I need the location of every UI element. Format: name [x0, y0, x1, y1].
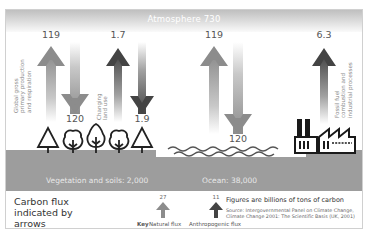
flux-value-up: 119: [199, 29, 229, 40]
carbon-cycle-diagram: Atmosphere 730: [0, 0, 369, 237]
arrow-down-natural-ocean: [224, 42, 252, 134]
tree-icon: [132, 128, 152, 153]
tree-icon: [87, 124, 104, 153]
flux-label-gpp: Global gross primary production and resp…: [13, 59, 32, 113]
legend-panel: Carbon flux indicated by arrows Key 27 N…: [6, 191, 362, 229]
flux-value-up: 1.7: [103, 29, 133, 40]
factory-icon: [293, 113, 359, 155]
key-anthropogenic-value: 11: [206, 194, 226, 200]
anthropogenic-flux-arrow-icon: [209, 202, 223, 218]
key-anthropogenic-label: Anthropogenic flux: [189, 221, 241, 227]
arrow-down-natural-vegetation: [61, 42, 89, 114]
natural-flux-arrow-icon: [156, 202, 170, 218]
flux-value-up: 119: [36, 29, 66, 40]
ocean-reservoir-label: Ocean: 38,000: [202, 176, 257, 185]
arrow-up-anthropogenic-landuse: [106, 48, 130, 122]
units-note: Figures are billions of tons of carbon: [226, 196, 344, 204]
key-natural-label: Natural flux: [149, 221, 181, 227]
flux-label-landuse: Changing land use: [96, 93, 109, 120]
key-natural-value: 27: [153, 194, 173, 200]
tree-icon: [64, 130, 83, 153]
source-citation: Source: Intergovernmental Panel on Clima…: [226, 208, 361, 220]
arrow-up-natural-ocean: [200, 46, 228, 134]
diagram-title: Carbon flux indicated by arrows: [14, 196, 104, 229]
flux-value-up: 6.3: [309, 29, 339, 40]
trees-group: [36, 123, 176, 155]
diagram-frame: Atmosphere 730: [5, 9, 363, 229]
vegetation-reservoir-label: Vegetation and soils: 2,000: [46, 176, 148, 185]
flux-label-fossil: Fossil fuel combustion and industrial pr…: [334, 62, 353, 118]
arrow-up-natural-vegetation: [37, 46, 65, 122]
key-label: Key: [137, 221, 148, 227]
tree-icon: [110, 130, 129, 153]
wave-icon: [166, 144, 306, 158]
tree-icon: [38, 128, 58, 153]
arrow-down-anthropogenic-landuse: [130, 42, 154, 114]
